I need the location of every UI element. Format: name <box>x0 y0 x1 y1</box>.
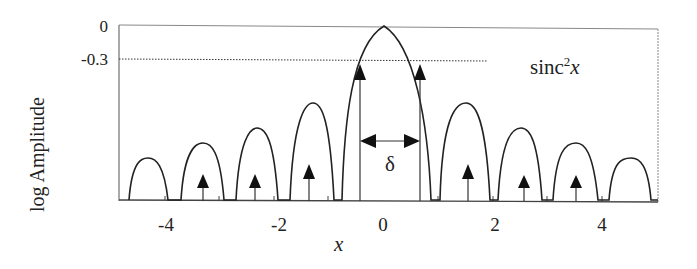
x-axis <box>119 200 658 202</box>
function-label: sinc2x <box>530 54 580 80</box>
y-tick-neg03: -0.3 <box>68 50 108 70</box>
x-tick--4: -4 <box>158 214 174 236</box>
delta-label: δ <box>385 152 395 177</box>
x-tick-0: 0 <box>378 214 388 236</box>
x-tick-2: 2 <box>490 214 500 236</box>
arrowhead-up-icon <box>414 64 426 80</box>
y-axis-label: log Amplitude <box>26 97 49 212</box>
arrow-left-icon <box>360 134 376 148</box>
x-axis-label: x <box>334 232 343 257</box>
sinc-squared-diagram <box>0 0 697 269</box>
threshold-line <box>119 59 488 61</box>
x-tick-4: 4 <box>597 214 607 236</box>
x-tick--2: -2 <box>271 214 287 236</box>
y-tick-0: 0 <box>68 17 108 37</box>
arrow-right-icon <box>404 134 420 148</box>
